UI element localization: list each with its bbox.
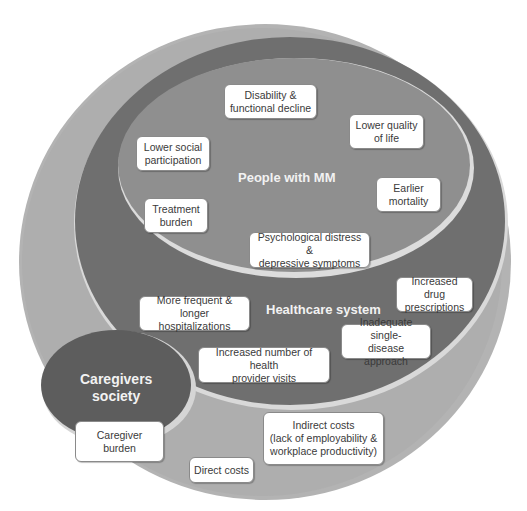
- box-text-line: depressive symptoms: [254, 257, 365, 270]
- box-text-line: functional decline: [230, 102, 311, 115]
- box-text-line: mortality: [389, 195, 429, 208]
- box-text-line: hospitalizations: [144, 320, 245, 333]
- box-text-line: (lack of employability &: [270, 432, 377, 445]
- box-text-line: Lower social: [144, 141, 202, 154]
- box-text-line: Direct costs: [194, 464, 249, 477]
- box-text-line: Disability &: [230, 89, 311, 102]
- box-text-line: Earlier: [389, 182, 429, 195]
- box-text-line: disease approach: [346, 342, 426, 368]
- box-text-line: Caregiver: [97, 429, 143, 442]
- box-lower-social-participation: Lower socialparticipation: [136, 136, 210, 171]
- caregivers-label-line1: Caregivers: [80, 371, 152, 388]
- box-text-line: Increased number of health: [203, 346, 325, 372]
- box-text-line: provider visits: [203, 372, 325, 385]
- box-lower-quality-of-life: Lower qualityof life: [349, 114, 424, 149]
- box-text-line: Increased drug: [401, 275, 468, 301]
- people-with-mm-label: People with MM: [238, 170, 336, 185]
- box-text-line: prescriptions: [401, 301, 468, 314]
- box-increased-drug-prescriptions: Increased drugprescriptions: [396, 277, 473, 312]
- box-text-line: Inadequate single-: [346, 316, 426, 342]
- box-text-line: Lower quality: [356, 119, 418, 132]
- box-disability-functional-decline: Disability &functional decline: [224, 84, 317, 119]
- box-psychological-distress: Psychological distress &depressive sympt…: [249, 232, 370, 268]
- box-text-line: Treatment: [152, 203, 199, 216]
- box-text-line: of life: [356, 132, 418, 145]
- box-indirect-costs: Indirect costs(lack of employability &wo…: [263, 412, 384, 465]
- box-earlier-mortality: Earliermortality: [376, 177, 441, 212]
- caregivers-label-line2: society: [80, 388, 152, 405]
- box-text-line: workplace productivity): [270, 445, 377, 458]
- box-text-line: burden: [97, 442, 143, 455]
- box-health-provider-visits: Increased number of healthprovider visit…: [198, 347, 330, 383]
- box-text-line: Indirect costs: [270, 419, 377, 432]
- box-treatment-burden: Treatmentburden: [144, 198, 208, 233]
- caregivers-society-label: Caregivers society: [80, 371, 152, 405]
- box-text-line: participation: [144, 154, 202, 167]
- box-text-line: More frequent & longer: [144, 294, 245, 320]
- box-text-line: burden: [152, 216, 199, 229]
- box-hospitalizations: More frequent & longerhospitalizations: [139, 296, 250, 331]
- box-caregiver-burden: Caregiverburden: [75, 421, 164, 462]
- box-text-line: Psychological distress &: [254, 231, 365, 257]
- box-direct-costs: Direct costs: [189, 457, 254, 483]
- box-inadequate-single-disease: Inadequate single-disease approach: [341, 324, 431, 359]
